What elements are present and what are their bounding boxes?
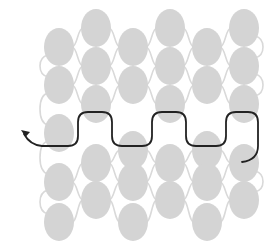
bead [192, 66, 222, 104]
bead [192, 28, 222, 66]
bead [44, 203, 74, 241]
bead [155, 47, 185, 85]
bead [229, 85, 259, 123]
edge-loop [255, 171, 263, 192]
bead [118, 203, 148, 241]
bead [44, 66, 74, 104]
bead [81, 85, 111, 123]
bead [81, 9, 111, 47]
bead [118, 28, 148, 66]
beadwork-diagram [0, 0, 274, 245]
edge-loop [255, 36, 263, 58]
bead [155, 9, 185, 47]
bead [229, 47, 259, 85]
bead [192, 163, 222, 201]
bead [81, 47, 111, 85]
edge-loop [40, 93, 48, 125]
edge-loop [40, 190, 48, 214]
bead [192, 203, 222, 241]
bead [155, 181, 185, 219]
bead [229, 9, 259, 47]
edge-loop [40, 55, 48, 77]
bead [229, 181, 259, 219]
bead [118, 163, 148, 201]
bead [44, 163, 74, 201]
bead [118, 66, 148, 104]
bead [81, 144, 111, 182]
bead [229, 144, 259, 182]
arrowhead-icon [21, 130, 30, 137]
bead [155, 85, 185, 123]
bead [81, 181, 111, 219]
bead [155, 144, 185, 182]
bead [44, 28, 74, 66]
edge-loop [255, 74, 263, 96]
